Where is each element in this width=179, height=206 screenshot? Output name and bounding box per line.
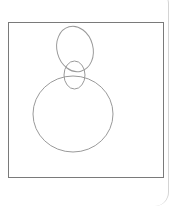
small-ellipse-shape	[64, 61, 85, 89]
diagram-canvas	[0, 0, 179, 196]
top-ellipse-shape	[52, 22, 99, 76]
large-circle-shape	[33, 76, 113, 152]
diagram-frame	[9, 23, 164, 178]
